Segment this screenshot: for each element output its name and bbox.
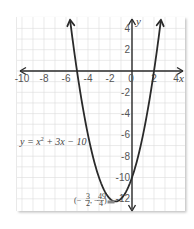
parabola-graph: -10-8-6-4-202442-2-4-6-8-10-12 y x y = x… (0, 0, 194, 229)
y-tick-label: -12 (116, 193, 131, 204)
y-tick-label: -6 (121, 129, 130, 140)
x-tick-label: -10 (15, 73, 30, 84)
x-tick-label: -6 (62, 73, 71, 84)
y-tick-label: 2 (124, 44, 130, 55)
y-tick-label: -8 (121, 151, 130, 162)
svg-text:): ) (104, 196, 107, 205)
x-tick-label: 0 (128, 73, 134, 84)
vertex-marker (108, 200, 115, 203)
x-tick-label: -8 (40, 73, 49, 84)
equation-label: y = x2 + 3x − 10 (19, 136, 87, 147)
x-tick-label: -4 (84, 73, 93, 84)
y-axis-label: y (135, 15, 141, 27)
svg-text:4: 4 (99, 199, 103, 208)
y-tick-label: -2 (121, 87, 130, 98)
y-tick-label: 4 (124, 23, 130, 34)
x-tick-label: -2 (106, 73, 115, 84)
svg-text:(−: (− (74, 196, 82, 205)
y-tick-label: -4 (121, 108, 130, 119)
x-axis-label: x (178, 72, 184, 84)
y-tick-label: -10 (116, 172, 131, 183)
